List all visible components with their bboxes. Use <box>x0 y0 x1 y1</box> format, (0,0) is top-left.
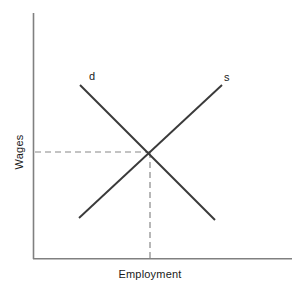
chart-plot-area <box>0 0 301 293</box>
labour-market-supply-demand-chart: Wages Employment d s <box>0 0 301 293</box>
y-axis-label: Wages <box>13 82 25 222</box>
x-axis-label: Employment <box>80 268 220 280</box>
demand-curve-label: d <box>89 70 95 82</box>
supply-curve-label: s <box>224 71 230 83</box>
